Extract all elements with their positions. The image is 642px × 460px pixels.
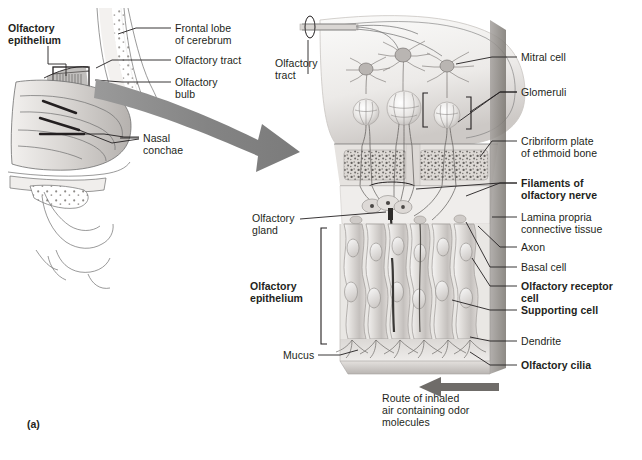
label-olfactory-epithelium-detail: Olfactory epithelium: [250, 280, 303, 304]
label-olfactory-gland: Olfactory gland: [252, 212, 294, 236]
right-detail-illustration: [300, 16, 525, 397]
label-frontal-lobe-of-cerebrum: Frontal lobe of cerebrum: [175, 22, 232, 46]
label-dendrite: Dendrite: [521, 335, 561, 347]
mucus-and-cilia: [336, 339, 490, 361]
label-nasal-conchae: Nasal conchae: [143, 132, 183, 156]
epithelium-bracket: [321, 228, 327, 344]
figure-olfactory-anatomy: Olfactory epithelium Frontal lobe of cer…: [0, 0, 642, 460]
label-basal-cell: Basal cell: [521, 261, 566, 273]
label-mitral-cell: Mitral cell: [521, 51, 566, 63]
label-cribriform-plate-of-ethmoid-bone: Cribriform plate of ethmoid bone: [521, 135, 597, 159]
label-olfactory-tract-detail: Olfactory tract: [275, 57, 317, 81]
label-olfactory-epithelium: Olfactory epithelium: [8, 22, 61, 46]
caption-route-of-inhaled-air: Route of inhaled air containing odor mol…: [382, 392, 469, 429]
label-olfactory-cilia: Olfactory cilia: [521, 359, 591, 371]
olfactory-epithelium-cells: [340, 224, 490, 339]
panel-letter-a: (a): [27, 418, 40, 430]
label-olfactory-tract: Olfactory tract: [175, 54, 241, 66]
label-olfactory-receptor-cell: Olfactory receptor cell: [521, 280, 613, 304]
label-glomeruli: Glomeruli: [521, 86, 566, 98]
label-filaments-of-olfactory-nerve: Filaments of olfactory nerve: [521, 177, 597, 201]
label-lamina-propria-connective-tissue: Lamina propria connective tissue: [521, 211, 602, 235]
label-supporting-cell: Supporting cell: [521, 304, 598, 316]
label-mucus: Mucus: [283, 349, 314, 361]
cribriform-plate: [334, 144, 498, 186]
label-axon: Axon: [521, 241, 545, 253]
label-olfactory-bulb: Olfactory bulb: [175, 76, 217, 100]
